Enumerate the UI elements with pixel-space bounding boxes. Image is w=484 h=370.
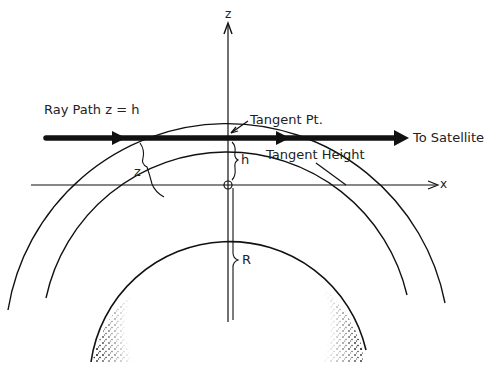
tangent-point-pointer bbox=[231, 121, 248, 133]
to-satellite-label: To Satellite bbox=[413, 131, 484, 144]
earth-body bbox=[0, 185, 484, 370]
R-label: R bbox=[242, 253, 251, 266]
tangent-point-label: Tangent Pt. bbox=[250, 113, 323, 126]
ray-path-label: Ray Path z = h bbox=[44, 103, 139, 116]
h-brace bbox=[232, 142, 238, 180]
z-axis-label: z bbox=[225, 8, 231, 20]
h-label: h bbox=[241, 153, 249, 166]
diagram-canvas bbox=[0, 0, 484, 370]
to-satellite-arrowhead bbox=[394, 130, 409, 146]
tangent-height-pointer bbox=[316, 163, 346, 185]
z-label: z bbox=[134, 165, 141, 178]
z-brace bbox=[140, 143, 164, 197]
tangent-height-label: Tangent Height bbox=[266, 148, 365, 161]
x-axis-label: x bbox=[440, 178, 447, 190]
limb-geometry-diagram: z x Ray Path z = h Tangent Pt. Tangent H… bbox=[0, 0, 484, 370]
